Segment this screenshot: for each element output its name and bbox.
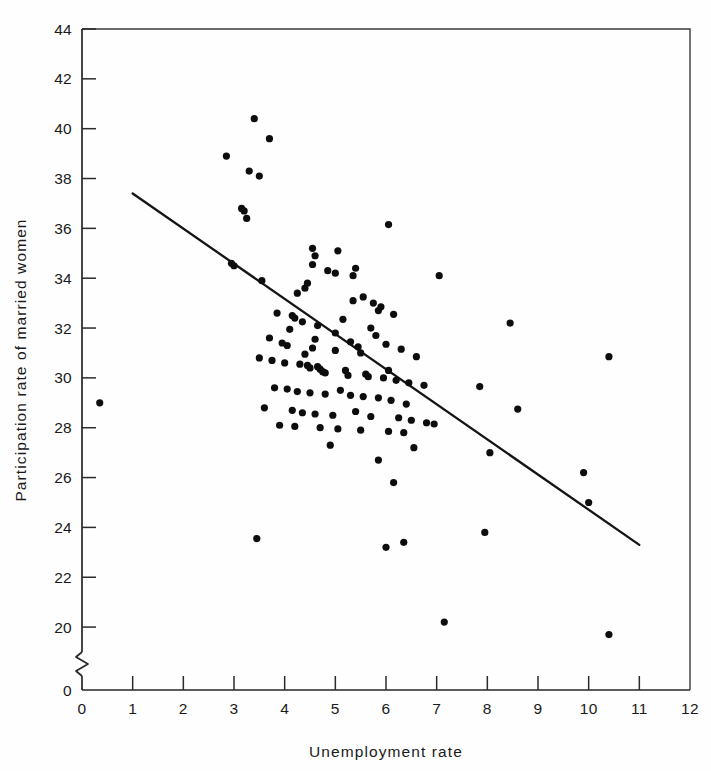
y-tick-label: 24	[54, 519, 72, 536]
x-tick-label: 10	[580, 700, 598, 717]
y-axis-break-icon	[76, 652, 88, 676]
data-point	[385, 221, 392, 228]
data-point	[605, 353, 612, 360]
data-point	[299, 409, 306, 416]
data-point	[382, 341, 389, 348]
y-tick-label: 30	[54, 369, 72, 386]
x-tick-label: 4	[280, 700, 289, 717]
data-point	[507, 319, 514, 326]
data-point	[332, 347, 339, 354]
data-point	[258, 277, 265, 284]
data-point	[375, 307, 382, 314]
x-tick-label: 7	[432, 700, 441, 717]
data-point	[441, 618, 448, 625]
data-point	[476, 383, 483, 390]
data-point	[291, 423, 298, 430]
data-point	[436, 272, 443, 279]
data-point	[301, 285, 308, 292]
data-point	[400, 539, 407, 546]
data-point	[367, 413, 374, 420]
data-point	[322, 369, 329, 376]
data-point	[372, 332, 379, 339]
data-point	[431, 420, 438, 427]
data-point	[96, 399, 103, 406]
data-point	[281, 359, 288, 366]
frame-top-right	[82, 29, 690, 690]
data-point	[370, 300, 377, 307]
scatter-plot-figure: 202224262830323436384042440 012345678910…	[0, 0, 711, 771]
data-point	[299, 318, 306, 325]
data-point	[339, 316, 346, 323]
y-tick-label: 28	[54, 419, 72, 436]
data-point	[309, 245, 316, 252]
x-tick-label: 5	[331, 700, 340, 717]
data-point	[585, 499, 592, 506]
data-point	[261, 404, 268, 411]
data-point	[390, 311, 397, 318]
y-tick-label: 26	[54, 469, 72, 486]
data-point	[352, 265, 359, 272]
data-point	[324, 267, 331, 274]
y-tick-label: 20	[54, 619, 72, 636]
data-point	[382, 544, 389, 551]
data-point	[413, 353, 420, 360]
y-axis-title: Participation rate of married women	[12, 218, 29, 501]
x-tick-label: 8	[483, 700, 492, 717]
data-point	[266, 135, 273, 142]
data-point	[243, 215, 250, 222]
x-tick-label: 6	[382, 700, 391, 717]
chart-canvas: 202224262830323436384042440 012345678910…	[0, 0, 711, 771]
data-point	[291, 314, 298, 321]
data-point	[347, 392, 354, 399]
data-point	[253, 535, 260, 542]
data-point-group	[96, 115, 612, 638]
x-tick-label: 0	[78, 700, 87, 717]
data-point	[301, 351, 308, 358]
data-point	[408, 417, 415, 424]
data-point	[332, 270, 339, 277]
data-point	[294, 290, 301, 297]
data-point	[311, 410, 318, 417]
data-point	[266, 334, 273, 341]
y-tick-label: 38	[54, 170, 72, 187]
data-point	[357, 427, 364, 434]
x-tick-label: 3	[230, 700, 239, 717]
data-point	[334, 247, 341, 254]
data-point	[393, 377, 400, 384]
y-tick-label: 40	[54, 120, 72, 137]
data-point	[398, 346, 405, 353]
data-point	[306, 364, 313, 371]
data-point	[294, 388, 301, 395]
data-point	[375, 457, 382, 464]
data-point	[271, 384, 278, 391]
data-point	[284, 385, 291, 392]
data-point	[580, 469, 587, 476]
data-point	[337, 387, 344, 394]
data-point	[306, 389, 313, 396]
data-point	[360, 293, 367, 300]
x-tick-label: 1	[128, 700, 137, 717]
data-point	[344, 372, 351, 379]
data-point	[311, 252, 318, 259]
data-point	[367, 324, 374, 331]
data-point	[352, 408, 359, 415]
x-tick-label: 9	[534, 700, 543, 717]
y-tick-label: 34	[54, 270, 72, 287]
data-point	[481, 529, 488, 536]
y-tick-label: 22	[54, 569, 72, 586]
data-point	[395, 414, 402, 421]
data-point	[289, 407, 296, 414]
data-point	[486, 449, 493, 456]
data-point	[284, 342, 291, 349]
data-point	[230, 262, 237, 269]
y-tick-group: 202224262830323436384042440	[54, 21, 96, 699]
data-point	[400, 429, 407, 436]
data-point	[273, 309, 280, 316]
data-point	[380, 374, 387, 381]
data-point	[334, 425, 341, 432]
x-tick-group: 0123456789101112	[78, 676, 699, 717]
x-tick-label: 11	[631, 700, 648, 717]
data-point	[276, 422, 283, 429]
plot-frame	[82, 29, 690, 690]
data-point	[514, 405, 521, 412]
